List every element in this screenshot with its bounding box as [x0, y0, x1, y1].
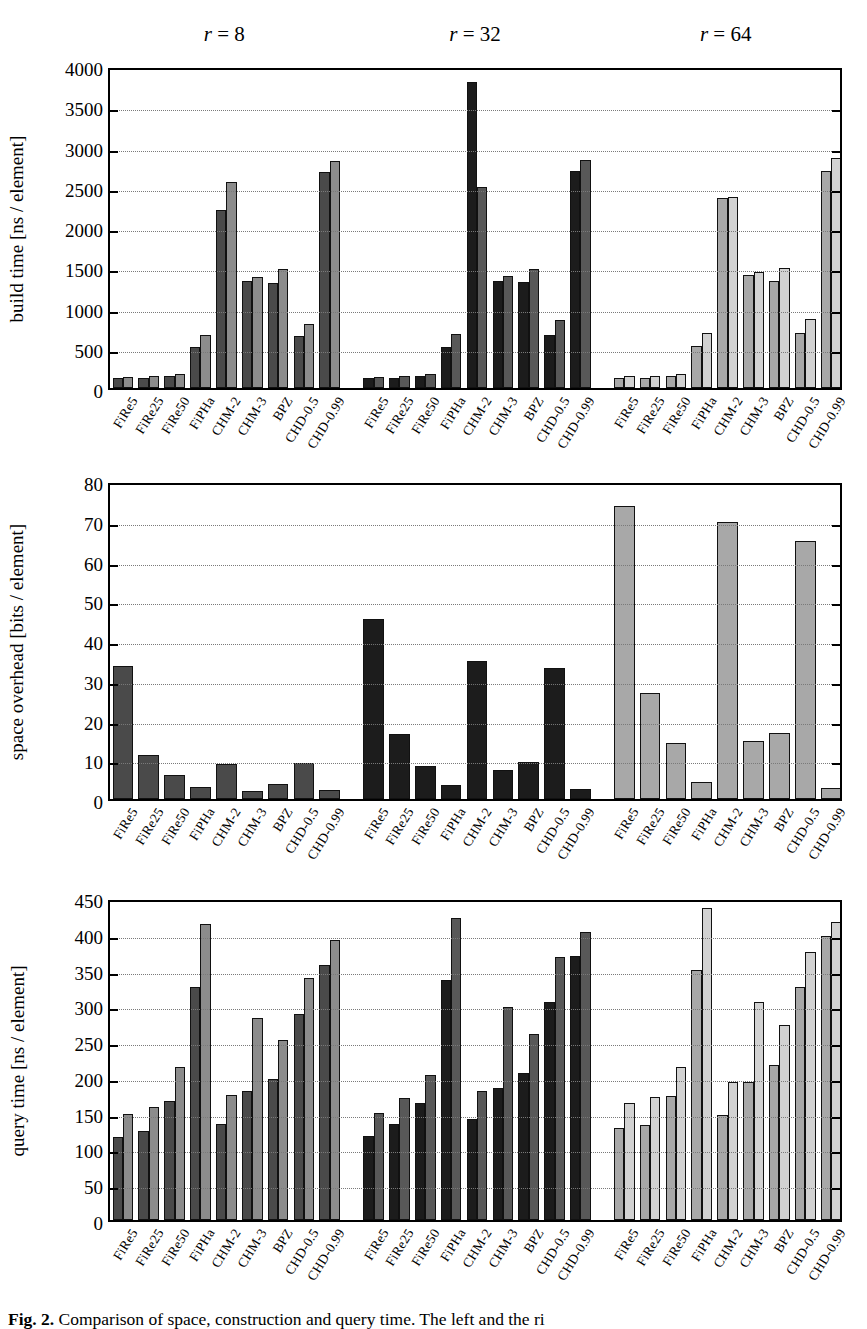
y-axis-label-space-overhead: space overhead [bits / element] — [0, 483, 34, 801]
bar — [138, 378, 148, 388]
y-tick-mark — [832, 151, 840, 153]
gridline — [110, 191, 840, 192]
bar — [467, 1119, 477, 1220]
bar — [821, 936, 831, 1220]
plot-area-space-overhead: 01020304050607080 FiRe5FiRe25FiRe50FiPHa… — [108, 483, 842, 801]
bar — [226, 182, 236, 388]
bar — [503, 276, 513, 388]
x-axis-labels-space-overhead: FiRe5FiRe25FiRe50FiPHaCHM-2CHM-3BPZCHD-0… — [108, 801, 842, 881]
bar — [123, 1114, 133, 1220]
y-tick-mark — [832, 191, 840, 193]
bar — [529, 269, 539, 388]
caption-label: Fig. 2. — [8, 1309, 54, 1329]
y-tick-mark — [110, 110, 118, 112]
bar — [268, 283, 278, 388]
bar — [138, 1131, 148, 1220]
bar — [624, 1103, 634, 1220]
bar — [544, 668, 565, 799]
group-header-r8: r = 8 — [144, 22, 304, 47]
caption-text: Comparison of space, construction and qu… — [59, 1309, 545, 1329]
gridline — [110, 352, 840, 353]
y-tick-label: 50 — [84, 1177, 103, 1199]
bar — [518, 1073, 528, 1220]
bar — [754, 272, 764, 388]
gridline — [110, 974, 840, 975]
bar — [640, 693, 661, 799]
bar — [389, 734, 410, 799]
y-tick-label: 0 — [94, 792, 104, 814]
y-tick-label: 1500 — [65, 260, 103, 282]
bar — [717, 198, 727, 388]
bar — [175, 374, 185, 388]
y-tick-mark — [832, 684, 840, 686]
y-axis-label-text: query time [ns / element] — [6, 966, 28, 1157]
y-tick-mark — [110, 724, 118, 726]
bar — [769, 733, 790, 799]
y-tick-label: 4000 — [65, 59, 103, 81]
bar — [805, 319, 815, 388]
bar — [831, 922, 840, 1220]
gridline — [110, 644, 840, 645]
y-tick-label: 0 — [94, 1213, 104, 1235]
bar — [624, 376, 634, 388]
y-tick-mark — [110, 191, 118, 193]
y-tick-label: 10 — [84, 752, 103, 774]
bar — [113, 1137, 123, 1220]
y-axis-label-build-time: build time [ns / element] — [0, 68, 34, 390]
bar — [795, 333, 805, 388]
bar — [477, 187, 487, 388]
bar — [650, 1097, 660, 1220]
y-tick-label: 150 — [75, 1106, 104, 1128]
bar — [451, 918, 461, 1220]
bar — [441, 347, 451, 388]
gridline — [110, 724, 840, 725]
gridline — [110, 312, 840, 313]
bar — [113, 378, 123, 388]
y-tick-mark — [832, 271, 840, 273]
y-tick-label: 3000 — [65, 140, 103, 162]
y-tick-mark — [110, 1152, 118, 1154]
gridline — [110, 1117, 840, 1118]
y-axis-label-query-time: query time [ns / element] — [0, 900, 34, 1222]
group-header-var: r — [204, 22, 212, 46]
x-axis-labels-build-time: FiRe5FiRe25FiRe50FiPHaCHM-2CHM-3BPZCHD-0… — [108, 390, 842, 470]
y-tick-label: 200 — [75, 1070, 104, 1092]
bar — [363, 378, 373, 388]
bar — [389, 378, 399, 388]
bar — [666, 1096, 676, 1221]
y-tick-label: 250 — [75, 1034, 104, 1056]
y-tick-mark — [110, 763, 118, 765]
bar — [717, 522, 738, 799]
bar — [451, 334, 461, 388]
y-tick-label: 350 — [75, 963, 104, 985]
y-tick-mark — [110, 1045, 118, 1047]
y-tick-label: 300 — [75, 998, 104, 1020]
bar — [477, 1091, 487, 1221]
bar — [570, 956, 580, 1220]
figure-caption: Fig. 2. Comparison of space, constructio… — [8, 1309, 863, 1329]
bar — [717, 1115, 727, 1220]
gridline — [110, 938, 840, 939]
y-tick-label: 400 — [75, 927, 104, 949]
bar — [294, 763, 315, 799]
bar — [743, 275, 753, 388]
group-header-equals: = 8 — [212, 22, 245, 46]
y-tick-label: 100 — [75, 1141, 104, 1163]
y-tick-mark — [110, 938, 118, 940]
bar — [779, 1025, 789, 1220]
y-tick-mark — [832, 938, 840, 940]
bar — [425, 374, 435, 388]
bar — [640, 1125, 650, 1220]
y-tick-mark — [832, 565, 840, 567]
bar — [242, 281, 252, 388]
bar — [190, 347, 200, 388]
group-headers: r = 8r = 32r = 64 — [0, 22, 867, 52]
y-tick-mark — [832, 352, 840, 354]
bar — [149, 1107, 159, 1220]
gridline — [110, 151, 840, 152]
y-tick-label: 3500 — [65, 99, 103, 121]
bar — [614, 1128, 624, 1220]
bar — [544, 335, 554, 388]
y-tick-mark — [832, 763, 840, 765]
y-tick-label: 70 — [84, 514, 103, 536]
